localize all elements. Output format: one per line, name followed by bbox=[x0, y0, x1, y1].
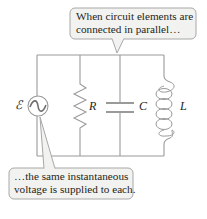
inductor-branch-wire bbox=[164, 55, 170, 156]
top-callout-line-2: connected in parallel… bbox=[76, 23, 193, 36]
top-callout-line-1: When circuit elements are bbox=[76, 10, 193, 23]
resistor-label: R bbox=[89, 99, 96, 114]
inductor-label: L bbox=[180, 99, 187, 114]
top-callout-text: When circuit elements are connected in p… bbox=[76, 10, 193, 36]
ac-source-icon bbox=[28, 96, 48, 116]
capacitor-label: C bbox=[139, 99, 147, 114]
inductor-coil-icon bbox=[156, 82, 174, 138]
bottom-callout-line-1: …the same instantaneous bbox=[14, 170, 135, 183]
source-label: ℰ bbox=[15, 98, 22, 113]
bottom-callout-line-2: voltage is supplied to each. bbox=[14, 183, 135, 196]
resistor-branch-wire bbox=[74, 55, 86, 156]
bottom-callout-text: …the same instantaneous voltage is suppl… bbox=[14, 170, 135, 196]
